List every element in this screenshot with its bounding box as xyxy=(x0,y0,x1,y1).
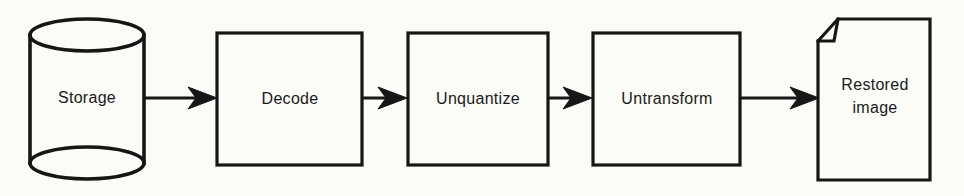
flow-diagram: Storage Decode Unquantize Untransform Re… xyxy=(0,0,964,196)
decode-label: Decode xyxy=(262,90,319,108)
arrow-decode-to-unquantize xyxy=(362,87,407,109)
unquantize-label: Unquantize xyxy=(436,90,520,108)
cylinder-top-ellipse xyxy=(30,19,144,51)
cylinder-bottom-ellipse xyxy=(30,147,144,179)
untransform-label: Untransform xyxy=(621,90,712,108)
arrow-untransform-to-restored-image xyxy=(740,87,819,109)
restored-image-label: Restored image xyxy=(833,73,917,119)
arrow-storage-to-decode xyxy=(144,87,217,109)
arrow-unquantize-to-untransform xyxy=(548,87,592,109)
storage-label: Storage xyxy=(58,89,116,107)
